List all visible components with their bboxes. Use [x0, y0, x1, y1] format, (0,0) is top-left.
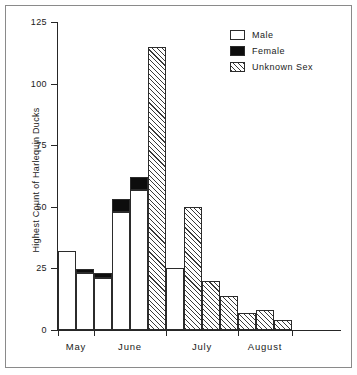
bar-segment-unknown-sex	[148, 47, 166, 330]
bar-segment-unknown-sex	[238, 313, 256, 330]
legend-label-male: Male	[252, 31, 274, 40]
y-tick-mark	[51, 330, 57, 331]
chart-legend: Male Female Unknown Sex	[230, 30, 313, 72]
bar-segment-unknown-sex	[184, 207, 202, 330]
y-tick-mark	[51, 268, 57, 269]
x-axis-group-label-august: August	[248, 342, 282, 352]
x-axis-group-label-june: June	[118, 342, 142, 352]
bar-segment-male	[58, 251, 76, 330]
bar-segment-male	[166, 268, 184, 330]
legend-swatch-male-icon	[230, 30, 245, 40]
bar-segment-unknown-sex	[274, 320, 292, 330]
x-tick-mark	[58, 330, 59, 336]
y-axis-title: Highest Count of Harlequin Ducks	[31, 80, 41, 280]
y-tick-mark	[51, 207, 57, 208]
bar-segment-male	[112, 212, 130, 330]
bar-segment-male	[94, 278, 112, 330]
y-tick-mark	[51, 84, 57, 85]
legend-item-male: Male	[230, 30, 313, 40]
x-axis-group-label-july: July	[192, 342, 212, 352]
x-tick-mark	[292, 330, 293, 336]
legend-swatch-unknown-sex-icon	[230, 62, 245, 72]
y-tick-label: 75	[7, 141, 47, 150]
y-tick-label: 100	[7, 80, 47, 89]
y-tick-label: 0	[7, 326, 47, 335]
bar-segment-unknown-sex	[256, 310, 274, 330]
y-tick-label: 50	[7, 203, 47, 212]
figure-canvas: Highest Count of Harlequin Ducks 0255075…	[0, 0, 357, 375]
bar-segment-female	[130, 177, 148, 189]
x-tick-mark	[238, 330, 239, 336]
x-tick-mark	[94, 330, 95, 336]
x-axis-line	[57, 330, 341, 331]
y-tick-mark	[51, 145, 57, 146]
legend-item-female: Female	[230, 46, 313, 56]
y-tick-label: 125	[7, 18, 47, 27]
y-tick-mark	[51, 22, 57, 23]
legend-label-female: Female	[252, 47, 285, 56]
bar-segment-unknown-sex	[220, 296, 238, 330]
bar-segment-female	[94, 273, 112, 278]
legend-label-unknown-sex: Unknown Sex	[252, 63, 313, 72]
bar-segment-unknown-sex	[202, 281, 220, 330]
legend-item-unknown-sex: Unknown Sex	[230, 62, 313, 72]
bar-segment-male	[130, 190, 148, 330]
x-axis-group-label-may: May	[66, 342, 86, 352]
bar-segment-female	[112, 199, 130, 211]
legend-swatch-female-icon	[230, 46, 245, 56]
bar-segment-male	[76, 273, 94, 330]
y-tick-label: 25	[7, 264, 47, 273]
x-tick-mark	[166, 330, 167, 336]
bar-segment-female	[76, 269, 94, 273]
